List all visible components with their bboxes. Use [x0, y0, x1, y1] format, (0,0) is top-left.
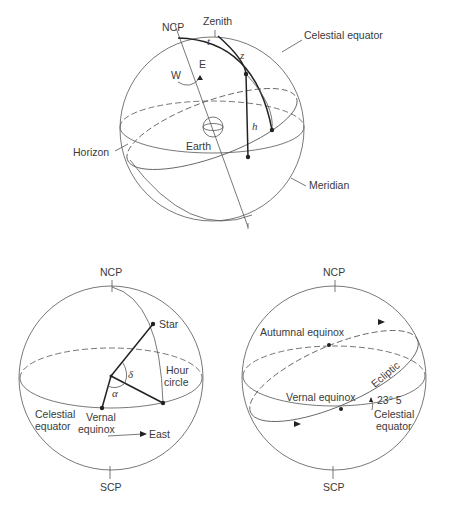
horizon-label: Horizon: [73, 146, 109, 158]
celestial-sphere-outline: [120, 37, 304, 221]
ncp-label: NCP: [323, 266, 345, 278]
top-diagram: Zenith NCP Celestial equator Horizon Mer…: [73, 15, 383, 229]
celestial-equator-label-1: Celestial: [35, 408, 75, 420]
east-arrowhead-icon: [140, 431, 147, 437]
alpha-label: α: [112, 387, 118, 399]
meridian-label: Meridian: [309, 179, 349, 191]
vernal-equinox-point: [100, 406, 104, 410]
angle-z-label: z: [239, 49, 245, 61]
obliquity-arrowhead-icon: [369, 397, 373, 402]
vernal-equinox-label-1: Vernal: [86, 411, 116, 423]
east-label: East: [149, 428, 170, 440]
star-point: [244, 72, 248, 76]
delta-angle-arc: [123, 363, 127, 383]
ncp-label: NCP: [100, 266, 122, 278]
meridian-leader: [291, 178, 306, 186]
ncp-label: NCP: [162, 21, 184, 33]
celestial-equator-label-2: equator: [35, 420, 71, 432]
hour-circle-radius: [111, 376, 163, 403]
celestial-sphere-figure: Zenith NCP Celestial equator Horizon Mer…: [0, 0, 451, 510]
scp-label: SCP: [323, 481, 345, 493]
horizon-point: [246, 155, 250, 159]
horizon-back: [120, 101, 304, 127]
star-point: [151, 322, 155, 326]
equator-leader: [282, 40, 302, 52]
star-to-equator-arc: [246, 74, 272, 130]
hour-circle-point: [161, 401, 165, 405]
celestial-sphere-outline: [242, 286, 426, 470]
zenith-label: Zenith: [203, 15, 232, 27]
bottom-right-diagram: NCP SCP Autumnal equinox Vernal equinox …: [239, 266, 430, 493]
east-label: E: [199, 58, 206, 70]
autumnal-equinox-point: [327, 343, 331, 347]
bottom-left-diagram: NCP SCP Star Hour circle δ α Celestial e…: [19, 266, 203, 493]
celestial-equator-front: [127, 98, 306, 186]
vernal-equinox-label: Vernal equinox: [286, 391, 356, 403]
scp-label: SCP: [100, 481, 122, 493]
ecliptic-arrowhead-icon: [294, 421, 301, 427]
star-label: Star: [159, 318, 179, 330]
earth-globe: [203, 117, 223, 137]
equator-point: [270, 128, 274, 132]
celestial-equator-label-1: Celestial: [374, 408, 414, 420]
hour-circle-label-2: circle: [164, 376, 189, 388]
autumnal-equinox-label: Autumnal equinox: [260, 326, 345, 338]
hour-circle-label-1: Hour: [166, 364, 189, 376]
vernal-equinox-label-2: equinox: [78, 423, 116, 435]
angle-h-label: h: [252, 120, 258, 132]
celestial-equator-label: Celestial equator: [304, 29, 383, 41]
hour-circle-arc: [112, 287, 163, 403]
vernal-equinox-point: [339, 407, 343, 411]
center-point: [110, 375, 113, 378]
rotation-arrowhead-icon: [197, 75, 203, 80]
ecliptic-arrowhead-icon: [378, 319, 385, 325]
vernal-equinox-radius: [102, 376, 111, 408]
west-label: W: [171, 69, 181, 81]
earth-label: Earth: [186, 140, 211, 152]
delta-label: δ: [128, 368, 134, 380]
obliquity-label: 23° 5: [377, 394, 402, 406]
celestial-equator-label-2: equator: [376, 420, 412, 432]
